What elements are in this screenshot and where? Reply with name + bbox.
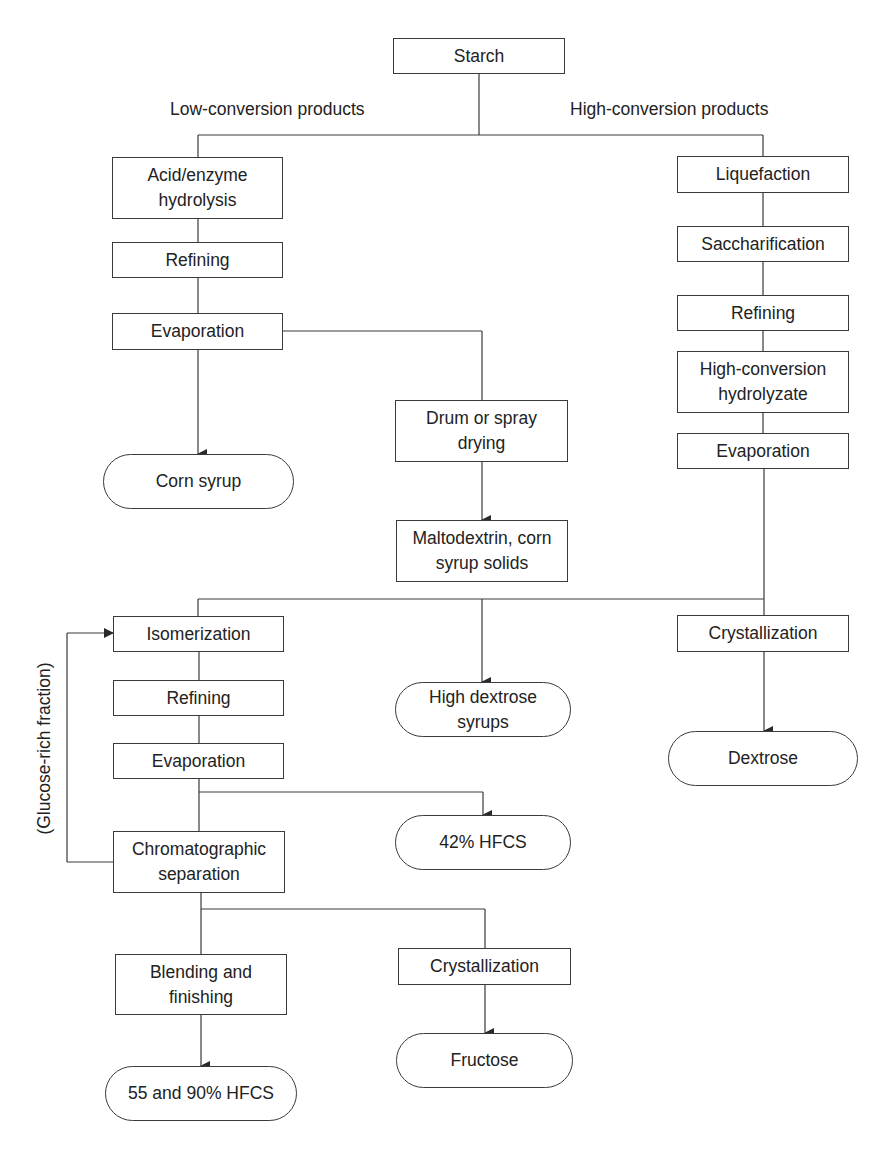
hfcs42-product: 42% HFCS [395,815,571,870]
liquefaction-label: Liquefaction [716,162,810,187]
crystallization-dextrose-label: Crystallization [709,621,818,646]
high-dextrose-syrups-product: High dextrose syrups [395,682,571,737]
refining-low-box: Refining [112,242,283,278]
liquefaction-box: Liquefaction [677,156,849,193]
evaporation-high-label: Evaporation [716,439,809,464]
low-conversion-label: Low-conversion products [170,99,365,120]
isomerization-label: Isomerization [146,622,250,647]
evaporation-hfcs-label: Evaporation [152,749,245,774]
crystallization-fructose-box: Crystallization [398,948,571,985]
chromatographic-box: Chromatographic separation [113,831,285,893]
hfcs55-90-product: 55 and 90% HFCS [105,1066,297,1121]
hydrolyzate-label: High-conversion hydrolyzate [683,357,843,407]
fructose-product: Fructose [396,1033,573,1088]
hfcs42-label: 42% HFCS [439,830,527,855]
refining-high-box: Refining [677,295,849,331]
refining-hfcs-label: Refining [166,686,230,711]
refining-low-label: Refining [165,248,229,273]
evaporation-low-box: Evaporation [112,313,283,350]
refining-hfcs-box: Refining [113,680,284,716]
feedback-label: (Glucose-rich fraction) [34,649,55,849]
hydrolyzate-box: High-conversion hydrolyzate [677,351,849,413]
fructose-label: Fructose [450,1048,518,1073]
crystallization-dextrose-box: Crystallization [677,615,849,652]
blending-label: Blending and finishing [141,960,261,1010]
saccharification-label: Saccharification [701,232,825,257]
hydrolysis-label: Acid/enzyme hydrolysis [138,163,258,213]
evaporation-high-box: Evaporation [677,433,849,469]
evaporation-low-label: Evaporation [151,319,244,344]
crystallization-fructose-label: Crystallization [430,954,539,979]
drying-label: Drum or spray drying [412,406,552,456]
dextrose-product: Dextrose [668,731,858,786]
starch-label: Starch [454,44,505,69]
hfcs55-90-label: 55 and 90% HFCS [128,1081,274,1106]
corn-syrup-label: Corn syrup [156,469,242,494]
saccharification-box: Saccharification [677,226,849,262]
drying-box: Drum or spray drying [395,400,568,462]
corn-syrup-product: Corn syrup [103,454,294,509]
isomerization-box: Isomerization [113,616,284,652]
blending-box: Blending and finishing [115,954,287,1015]
refining-high-label: Refining [731,301,795,326]
chromatographic-label: Chromatographic separation [119,837,279,887]
maltodextrin-label: Maltodextrin, corn syrup solids [402,526,562,576]
evaporation-hfcs-box: Evaporation [113,743,284,779]
starch-box: Starch [393,38,565,74]
high-dextrose-syrups-label: High dextrose syrups [413,685,553,735]
high-conversion-label: High-conversion products [570,99,768,120]
hydrolysis-box: Acid/enzyme hydrolysis [112,157,283,219]
maltodextrin-box: Maltodextrin, corn syrup solids [396,520,568,582]
dextrose-label: Dextrose [728,746,798,771]
